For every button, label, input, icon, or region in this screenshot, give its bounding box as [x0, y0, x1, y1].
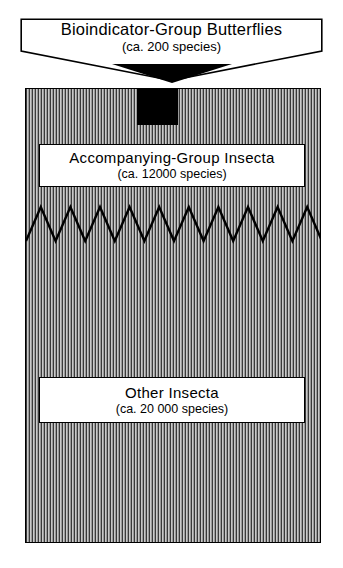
zigzag-divider-svg [26, 201, 321, 245]
funnel-tip-triangle-icon [112, 64, 232, 84]
funnel-tip-triangle-path [112, 64, 232, 83]
black-square-inlet [137, 89, 178, 125]
plaque-other-insecta: Other Insecta (ca. 20 000 species) [39, 377, 305, 423]
plaque-accompanying-title: Accompanying-Group Insecta [69, 149, 274, 167]
plaque-accompanying-group: Accompanying-Group Insecta (ca. 12000 sp… [39, 144, 305, 187]
plaque-other-count: (ca. 20 000 species) [116, 402, 229, 417]
plaque-other-title: Other Insecta [125, 384, 219, 402]
figure-canvas: Bioindicator-Group Butterflies (ca. 200 … [0, 0, 343, 568]
insecta-column: Accompanying-Group Insecta (ca. 12000 sp… [25, 88, 321, 543]
plaque-accompanying-count: (ca. 12000 species) [117, 167, 226, 182]
zigzag-divider [26, 201, 321, 245]
zigzag-polyline [26, 207, 321, 241]
